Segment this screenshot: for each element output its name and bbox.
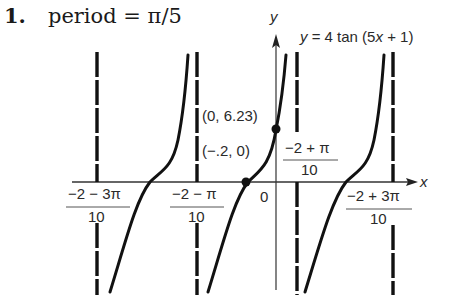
origin-label: 0: [260, 188, 268, 205]
tangent-graph: x y 0 (0, 6.23) (−.2, 0) y = 4 tan (5x +…: [0, 0, 457, 303]
equation-label: y = 4 tan (5x + 1): [299, 28, 413, 45]
curve-branch-1: [110, 55, 188, 292]
asymptote-label-4: −2 + 3π 10: [346, 187, 412, 227]
point-y-intercept-label: (0, 6.23): [202, 107, 258, 124]
svg-text:10: 10: [88, 208, 105, 225]
svg-text:10: 10: [188, 208, 205, 225]
svg-text:−2 + 3π: −2 + 3π: [347, 187, 400, 204]
asymptote-label-1: −2 − 3π 10: [66, 185, 130, 225]
svg-text:−2 − π: −2 − π: [172, 185, 217, 202]
asymptote-label-3: −2 + π 10: [283, 139, 338, 178]
svg-text:−2 + π: −2 + π: [285, 139, 330, 156]
point-x-intercept-label: (−.2, 0): [202, 142, 250, 159]
svg-text:10: 10: [370, 210, 387, 227]
svg-text:10: 10: [301, 161, 318, 178]
point-x-intercept: [242, 178, 251, 187]
x-axis-label: x: [419, 173, 428, 190]
curve-branch-2: [208, 55, 286, 292]
asymptotes: [97, 52, 393, 295]
asymptote-label-2: −2 − π 10: [170, 185, 224, 225]
y-axis-label: y: [269, 8, 279, 25]
svg-text:−2 − 3π: −2 − 3π: [68, 185, 121, 202]
tangent-curves: [110, 55, 384, 292]
point-y-intercept: [272, 125, 281, 134]
